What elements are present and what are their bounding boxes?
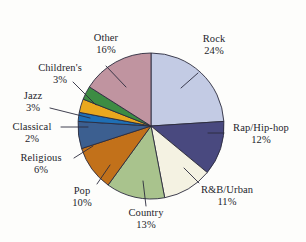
- pie-label-classical-percent: 2%: [2, 133, 62, 145]
- pie-label-country-name: Country: [114, 207, 178, 219]
- pie-label-pop-name: Pop: [60, 185, 104, 197]
- pie-label-rock-percent: 24%: [186, 45, 242, 57]
- pie-label-childrens-percent: 3%: [26, 74, 94, 86]
- pie-label-country-percent: 13%: [114, 219, 178, 231]
- pie-label-other-percent: 16%: [82, 44, 130, 56]
- pie-label-religious-percent: 6%: [8, 164, 74, 176]
- pie-label-religious: Religious 6%: [8, 152, 74, 175]
- pie-slice-rock: [151, 53, 224, 126]
- pie-slice-group: [78, 53, 224, 199]
- pie-label-pop-percent: 10%: [60, 197, 104, 209]
- pie-label-other-name: Other: [82, 32, 130, 44]
- pie-label-classical: Classical 2%: [2, 121, 62, 144]
- pie-label-jazz: Jazz 3%: [14, 90, 52, 113]
- pie-chart-figure: Rock 24% Rap/Hip-hop 12% R&B/Urban 11% C…: [0, 0, 306, 242]
- pie-label-rock-name: Rock: [186, 33, 242, 45]
- pie-label-religious-name: Religious: [8, 152, 74, 164]
- pie-label-pop: Pop 10%: [60, 185, 104, 208]
- pie-label-childrens-name: Children's: [26, 62, 94, 74]
- pie-label-rock: Rock 24%: [186, 33, 242, 56]
- pie-label-country: Country 13%: [114, 207, 178, 230]
- pie-label-rnb-urban: R&B/Urban 11%: [189, 184, 265, 207]
- pie-label-rnb-urban-name: R&B/Urban: [189, 184, 265, 196]
- pie-label-classical-name: Classical: [2, 121, 62, 133]
- pie-label-jazz-name: Jazz: [14, 90, 52, 102]
- pie-label-other: Other 16%: [82, 32, 130, 55]
- pie-label-rnb-urban-percent: 11%: [189, 196, 265, 208]
- pie-label-childrens: Children's 3%: [26, 62, 94, 85]
- pie-label-rap-hip-hop: Rap/Hip-hop 12%: [218, 122, 304, 145]
- pie-label-rap-hip-hop-name: Rap/Hip-hop: [218, 122, 304, 134]
- pie-label-jazz-percent: 3%: [14, 102, 52, 114]
- pie-label-rap-hip-hop-percent: 12%: [218, 134, 304, 146]
